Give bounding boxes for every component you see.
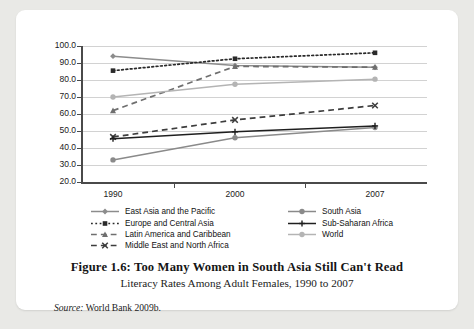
chart-area: 100.090.080.070.060.050.040.030.020.0 19… [38, 28, 436, 198]
series-point-marker [299, 209, 304, 214]
legend-item-label: Latin America and Caribbean [125, 229, 231, 240]
legend-key-plus-icon [287, 218, 317, 229]
series-sub-saharan-africa [110, 123, 378, 142]
series-point-marker [232, 129, 238, 135]
source-label: Source: [54, 302, 83, 313]
series-point-marker [373, 51, 378, 56]
source-note: Source: World Bank 2009b. [54, 302, 161, 313]
legend-item-label: South Asia [322, 206, 361, 217]
series-latin-america-and-caribbean [110, 63, 378, 113]
series-line [113, 53, 375, 71]
figure-title: Figure 1.6: Too Many Women in South Asia… [38, 260, 436, 275]
legend-key-diamond-icon [90, 206, 120, 217]
legend-item[interactable]: Sub-Saharan Africa [287, 217, 393, 228]
series-middle-east-and-north-africa [110, 103, 378, 140]
figure-container: 100.090.080.070.060.050.040.030.020.0 19… [38, 28, 436, 300]
series-line [113, 106, 375, 137]
legend-key [90, 240, 120, 251]
figure-caption: Figure 1.6: Too Many Women in South Asia… [38, 260, 436, 290]
chart-legend: East Asia and the PacificEurope and Cent… [90, 206, 436, 254]
legend-item[interactable]: Europe and Central Asia [90, 217, 231, 228]
legend-key-circle-icon [287, 229, 317, 240]
legend-key [287, 218, 317, 229]
series-line [113, 79, 375, 97]
series-line [113, 128, 375, 160]
legend-item-label: World [322, 229, 343, 240]
series-south-asia [110, 125, 377, 163]
legend-item-label: East Asia and the Pacific [125, 206, 215, 217]
series-point-marker [110, 53, 116, 59]
series-point-marker [110, 157, 115, 162]
series-point-marker [102, 209, 108, 215]
legend-item[interactable]: Middle East and North Africa [90, 240, 231, 251]
series-point-marker [299, 220, 305, 226]
legend-item[interactable]: World [287, 229, 393, 240]
legend-key [90, 218, 120, 229]
legend-key [287, 229, 317, 240]
series-point-marker [372, 76, 377, 81]
legend-key-triangle-icon [90, 229, 120, 240]
legend-key [90, 229, 120, 240]
legend-key-circle-icon [287, 206, 317, 217]
legend-key [287, 206, 317, 217]
series-point-marker [110, 94, 115, 99]
legend-item-label: Middle East and North Africa [125, 240, 229, 251]
series-line [113, 66, 375, 110]
series-plot-layer [38, 28, 436, 198]
series-point-marker [299, 232, 304, 237]
legend-item[interactable]: South Asia [287, 206, 393, 217]
series-europe-and-central-asia [111, 51, 378, 73]
series-point-marker [111, 68, 116, 73]
series-point-marker [103, 221, 108, 226]
figure-subtitle: Literacy Rates Among Adult Females, 1990… [38, 276, 436, 290]
legend-key-square-icon [90, 218, 120, 229]
page-background: 100.090.080.070.060.050.040.030.020.0 19… [0, 0, 474, 329]
legend-column-1: East Asia and the PacificEurope and Cent… [90, 206, 231, 252]
legend-key [90, 206, 120, 217]
series-point-marker [232, 135, 237, 140]
legend-item[interactable]: East Asia and the Pacific [90, 206, 231, 217]
legend-item-label: Europe and Central Asia [125, 218, 214, 229]
legend-key-cross-icon [90, 240, 120, 251]
series-point-marker [233, 56, 238, 61]
legend-item-label: Sub-Saharan Africa [322, 218, 393, 229]
legend-item[interactable]: Latin America and Caribbean [90, 229, 231, 240]
source-text: World Bank 2009b. [86, 302, 161, 313]
legend-column-2: South AsiaSub-Saharan AfricaWorld [287, 206, 393, 240]
figure-card: 100.090.080.070.060.050.040.030.020.0 19… [16, 10, 458, 310]
series-point-marker [232, 82, 237, 87]
